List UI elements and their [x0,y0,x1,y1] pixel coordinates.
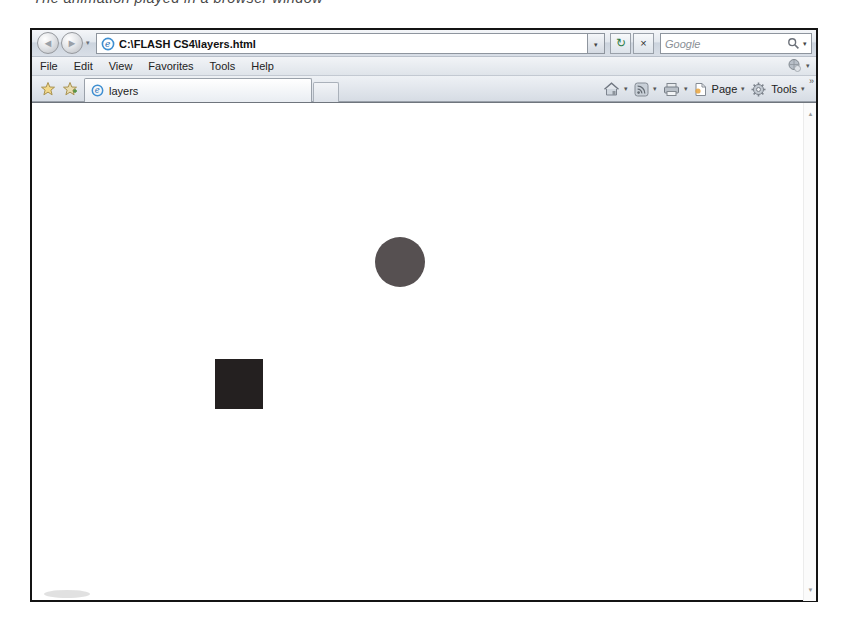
print-dropdown-icon[interactable]: ▾ [684,85,688,93]
search-box[interactable]: Google ▾ [660,33,812,54]
add-favorite-icon[interactable] [62,81,78,97]
svg-text:e: e [95,85,100,95]
tools-dropdown-icon[interactable]: ▾ [801,85,805,93]
stop-button[interactable]: × [633,33,654,54]
favorites-center-icon[interactable] [40,81,56,97]
animation-square-shape [215,359,263,409]
page-icon[interactable] [694,82,707,97]
tab-command-bar: e layers ▾ [32,76,816,102]
refresh-button[interactable]: ↻ [610,33,631,54]
page-dropdown-icon[interactable]: ▾ [741,85,745,93]
page-content-area: ▲ ▼ [32,102,816,600]
ie-page-icon: e [101,37,115,51]
new-tab-button[interactable] [313,82,339,102]
feed-dropdown-icon[interactable]: ▾ [653,85,657,93]
tab-layers[interactable]: e layers [84,78,312,102]
scroll-up-icon[interactable]: ▲ [804,111,817,117]
send-globe-icon[interactable] [787,58,802,73]
search-placeholder-text: Google [665,38,787,50]
address-bar[interactable]: e C:\FLASH CS4\layers.html [96,33,588,54]
tools-gear-icon[interactable] [751,82,766,97]
tools-button-label[interactable]: Tools [771,83,797,95]
figure-caption: The animation played in a browser window [33,0,323,6]
back-button[interactable]: ◄ [37,32,59,54]
tab-favicon-icon: e [91,84,104,97]
address-dropdown-button[interactable]: ▾ [588,33,605,54]
forward-button[interactable]: ► [61,32,83,54]
page-button-label[interactable]: Page [712,83,738,95]
menu-help[interactable]: Help [243,60,282,72]
navigation-bar: ◄ ► ▾ e C:\FLASH CS4\layers.html ▾ ↻ × G… [32,30,816,57]
print-icon[interactable] [663,82,680,97]
menu-view[interactable]: View [101,60,141,72]
menu-file[interactable]: File [32,60,66,72]
menu-tools[interactable]: Tools [202,60,244,72]
animation-circle-shape [375,237,425,287]
browser-window: ◄ ► ▾ e C:\FLASH CS4\layers.html ▾ ↻ × G… [30,28,818,602]
tab-label: layers [109,85,138,97]
history-dropdown-icon[interactable]: ▾ [86,39,90,47]
menu-edit[interactable]: Edit [66,60,101,72]
toolbar-overflow-chevron-icon[interactable]: » [809,76,814,86]
search-icon[interactable] [787,37,800,50]
search-options-dropdown-icon[interactable]: ▾ [803,40,807,48]
menu-bar: File Edit View Favorites Tools Help ▾ [32,57,816,76]
home-icon[interactable] [603,82,620,97]
svg-text:e: e [105,39,110,49]
send-dropdown-icon[interactable]: ▾ [806,62,810,70]
scan-artifact [44,590,90,598]
vertical-scrollbar[interactable]: ▲ ▼ [803,103,816,601]
home-dropdown-icon[interactable]: ▾ [624,85,628,93]
scroll-down-icon[interactable]: ▼ [804,587,817,593]
menu-favorites[interactable]: Favorites [140,60,201,72]
rss-feed-icon[interactable] [634,82,649,97]
address-url-text: C:\FLASH CS4\layers.html [119,38,256,50]
